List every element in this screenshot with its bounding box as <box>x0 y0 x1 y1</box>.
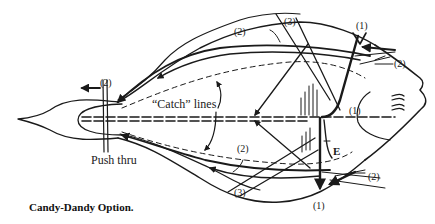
label-push-thru: Push thru <box>91 154 137 166</box>
arrow-top-right-to-center <box>255 44 308 115</box>
fish-outline-drawing <box>0 0 435 224</box>
bottom-diagonal-cut-2 <box>240 150 318 196</box>
eye-lower <box>392 105 404 111</box>
label-top-vertical: (1) <box>356 21 368 31</box>
push-thru-mark-2 <box>107 80 108 152</box>
label-top-diagonal: (3) <box>284 17 296 27</box>
label-e-marker: E <box>333 146 340 157</box>
gill-curve <box>357 92 390 140</box>
label-right-lower-cut: (2) <box>368 172 380 182</box>
fish-diagram: (2) (2) (3) (1) (2) (1) “Catch” lines Pu… <box>0 0 435 224</box>
top-diagonal-cut-2 <box>296 18 340 110</box>
eye-upper <box>392 95 404 101</box>
label-bottom-cut: (2) <box>237 144 249 154</box>
catch-arrow-up <box>217 82 221 108</box>
fillet-tail-end <box>78 104 122 135</box>
push-thru-mark-1 <box>103 80 104 152</box>
label-right-upper-cut: (2) <box>394 59 406 69</box>
figure-caption: Candy-Dandy Option. <box>29 201 134 213</box>
label-top-cut: (2) <box>234 27 246 37</box>
lower-cut-line <box>122 135 330 171</box>
e-bracket <box>324 120 332 158</box>
leader-top-2 <box>270 30 280 42</box>
label-bottom-vertical: (1) <box>313 201 325 211</box>
label-tail-cut: (2) <box>100 78 112 88</box>
label-bottom-diagonal: (3) <box>234 188 246 198</box>
label-gill-mark: (1) <box>349 106 361 116</box>
body-upper-edge <box>118 22 375 102</box>
label-catch-lines: “Catch” lines <box>152 98 216 110</box>
dorsal-fin-edge <box>118 13 300 100</box>
